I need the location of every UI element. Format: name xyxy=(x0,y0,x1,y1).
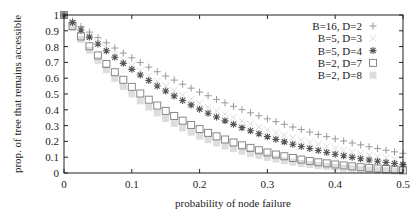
legend-label: B=16, D=2 xyxy=(312,20,362,32)
y-tick-label: 0.8 xyxy=(45,41,59,53)
x-tick-label: 0.3 xyxy=(261,178,275,190)
y-tick-label: 0.4 xyxy=(45,104,59,116)
legend-label: B=2, D=7 xyxy=(318,57,363,69)
y-axis-label: prop. of tree that remains accessible xyxy=(11,15,23,173)
x-tick-label: 0.1 xyxy=(125,178,139,190)
x-tick-label: 0.5 xyxy=(396,178,410,190)
legend-label: B=5, D=4 xyxy=(318,45,363,57)
legend-label: B=5, D=3 xyxy=(318,32,363,44)
legend: B=16, D=2B=5, D=3B=5, D=4B=2, D=7B=2, D=… xyxy=(312,20,376,81)
legend-entry: B=2, D=7 xyxy=(318,57,377,69)
y-tick-label: 0.3 xyxy=(45,120,59,132)
x-tick-label: 0.4 xyxy=(328,178,342,190)
y-tick-label: 0.1 xyxy=(45,151,59,163)
y-tick-label: 0.5 xyxy=(45,88,59,100)
y-tick-label: 1 xyxy=(54,9,60,21)
chart: 00.10.20.30.40.50.60.70.80.91 00.10.20.3… xyxy=(0,0,417,219)
y-tick-label: 0.9 xyxy=(45,25,59,37)
legend-entry: B=2, D=8 xyxy=(318,69,377,81)
y-tick-label: 0.2 xyxy=(45,135,59,147)
y-tick-label: 0.6 xyxy=(45,72,59,84)
y-tick-label: 0.7 xyxy=(45,56,59,68)
y-tick-label: 0 xyxy=(54,167,60,179)
x-tick-label: 0 xyxy=(61,178,67,190)
x-axis-label: probability of node failure xyxy=(175,197,291,209)
legend-entry: B=5, D=3 xyxy=(318,32,377,44)
legend-entry: B=16, D=2 xyxy=(312,20,376,32)
x-tick-label: 0.2 xyxy=(193,178,207,190)
legend-entry: B=5, D=4 xyxy=(318,45,377,57)
legend-label: B=2, D=8 xyxy=(318,69,363,81)
